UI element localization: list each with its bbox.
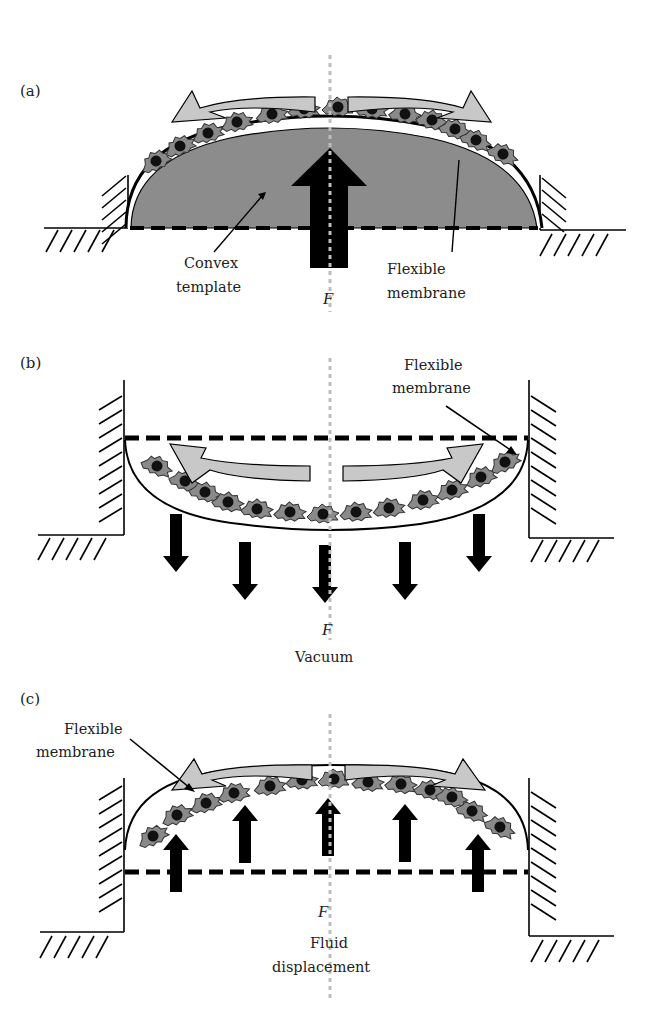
figure-canvas: (a) [0, 0, 647, 1024]
panel-b: (b) [20, 354, 614, 665]
panel-label-b: (b) [20, 354, 41, 372]
membrane-label-b-line2: membrane [392, 380, 471, 396]
fluid-label-line2: displacement [272, 959, 370, 975]
wall-hatch-left-c [40, 778, 124, 958]
force-label-c: F [317, 902, 329, 921]
force-arrows-down-b [163, 514, 492, 603]
wall-hatch-right-c [529, 778, 614, 962]
panel-c: (c) [20, 690, 614, 1000]
template-label-line2: template [176, 279, 241, 295]
fluid-label-line1: Fluid [310, 935, 348, 951]
membrane-label-b-line1: Flexible [404, 357, 463, 373]
vacuum-label: Vacuum [294, 649, 354, 665]
panel-label-c: (c) [20, 690, 40, 708]
flow-arrow-right-b [343, 444, 483, 483]
flow-arrow-left-b [170, 444, 310, 483]
force-label-a: F [322, 289, 334, 308]
wall-hatch-left-b [38, 380, 124, 560]
membrane-label-a-line2: membrane [387, 285, 466, 301]
panel-a: (a) [20, 55, 626, 312]
ground-hatch-right [540, 175, 626, 256]
membrane-label-c-line2: membrane [36, 744, 115, 760]
membrane-label-c-line1: Flexible [64, 721, 123, 737]
force-label-b: F [321, 620, 333, 639]
membrane-label-a-line1: Flexible [387, 261, 446, 277]
membrane-pointer-c [130, 739, 190, 788]
template-label-line1: Convex [184, 255, 238, 271]
wall-hatch-right-b [529, 380, 614, 562]
force-arrows-up-c [163, 798, 491, 892]
panel-label-a: (a) [20, 82, 41, 100]
ground-hatch-left [44, 175, 128, 252]
